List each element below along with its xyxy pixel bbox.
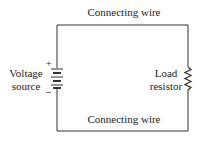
top-wire-label: Connecting wire — [86, 6, 162, 18]
voltage-source-label-line1: Voltage — [8, 67, 44, 79]
voltage-source-label-line2: source — [8, 80, 44, 92]
battery-icon — [51, 69, 63, 88]
plus-sign: + — [46, 58, 52, 70]
minus-sign: – — [46, 86, 51, 98]
load-resistor-label-line1: Load — [148, 67, 184, 79]
load-resistor-label-line2: resistor — [146, 80, 186, 92]
bottom-wire-label: Connecting wire — [86, 113, 162, 125]
